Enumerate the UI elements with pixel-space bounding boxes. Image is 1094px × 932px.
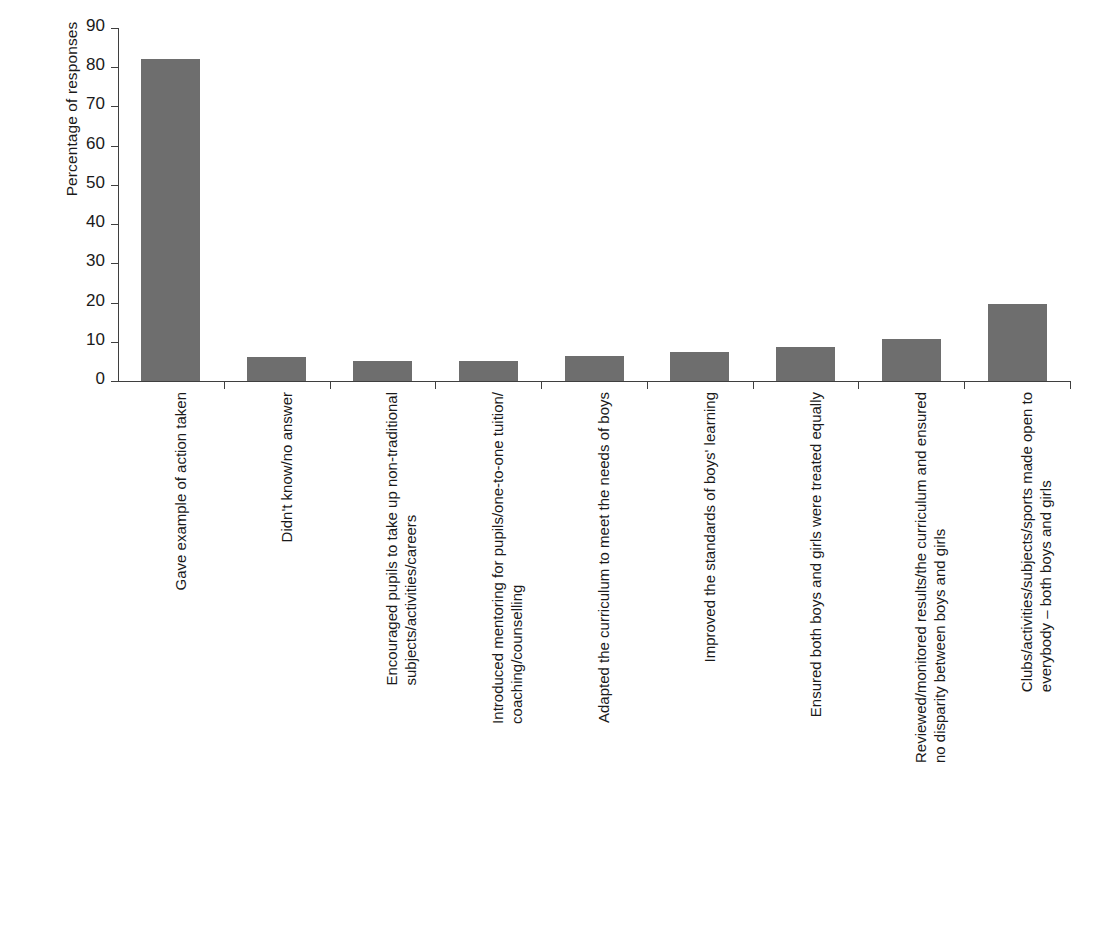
category-label-line: Gave example of action taken: [171, 392, 190, 590]
y-tick-label: 0: [96, 370, 105, 387]
y-tick-mark: [111, 303, 118, 304]
x-tick-mark: [224, 381, 225, 389]
category-label-1: Gave example of action taken: [171, 392, 190, 590]
category-label-6: Improved the standards of boys' learning: [700, 392, 719, 663]
y-tick-0: 0: [118, 381, 119, 382]
y-tick-mark: [111, 185, 118, 186]
category-label-line: Improved the standards of boys' learning: [700, 392, 719, 663]
x-tick-mark: [330, 381, 331, 389]
y-tick-label: 80: [86, 56, 105, 73]
y-tick-label: 30: [86, 252, 105, 269]
category-label-5: Adapted the curriculum to meet the needs…: [594, 392, 613, 723]
y-tick-mark: [111, 224, 118, 225]
x-tick-mark: [435, 381, 436, 389]
bar-1: [141, 59, 200, 381]
category-label-line: Clubs/activities/subjects/sports made op…: [1017, 392, 1036, 692]
y-tick-mark: [111, 67, 118, 68]
bar-7: [776, 347, 835, 381]
x-axis-line: [118, 381, 1071, 382]
bar-9: [988, 304, 1047, 381]
category-label-line: subjects/activities/careers: [401, 392, 420, 686]
bar-6: [670, 352, 729, 381]
category-label-3: Encouraged pupils to take up non-traditi…: [382, 392, 420, 686]
category-label-line: Encouraged pupils to take up non-traditi…: [382, 392, 401, 686]
category-label-4: Introduced mentoring for pupils/one-to-o…: [488, 392, 526, 724]
category-label-line: Reviewed/monitored results/the curriculu…: [911, 392, 930, 763]
category-label-line: Introduced mentoring for pupils/one-to-o…: [488, 392, 507, 724]
y-tick-mark: [111, 106, 118, 107]
category-label-2: Didn't know/no answer: [277, 392, 296, 542]
x-tick-mark: [858, 381, 859, 389]
x-tick-mark: [1070, 381, 1071, 389]
bar-8: [882, 339, 941, 381]
y-tick-label: 10: [86, 331, 105, 348]
category-label-line: Didn't know/no answer: [277, 392, 296, 542]
category-label-line: no disparity between boys and girls: [930, 392, 949, 763]
y-tick-label: 60: [86, 135, 105, 152]
y-tick-label: 90: [86, 17, 105, 34]
category-label-7: Ensured both boys and girls were treated…: [806, 392, 825, 717]
bar-5: [565, 356, 624, 381]
y-tick-label: 70: [86, 95, 105, 112]
category-label-9: Clubs/activities/subjects/sports made op…: [1017, 392, 1055, 692]
y-tick-label: 40: [86, 213, 105, 230]
bar-2: [247, 357, 306, 381]
bar-3: [353, 361, 412, 381]
y-tick-label: 20: [86, 292, 105, 309]
x-tick-mark: [541, 381, 542, 389]
category-label-line: coaching/counselling: [507, 392, 526, 724]
bar-4: [459, 361, 518, 381]
y-tick-mark: [111, 28, 118, 29]
y-tick-mark: [111, 263, 118, 264]
x-tick-mark: [753, 381, 754, 389]
x-tick-mark: [647, 381, 648, 389]
y-axis-title: Percentage of responses: [63, 0, 81, 259]
y-tick-mark: [111, 146, 118, 147]
y-tick-label: 50: [86, 174, 105, 191]
x-tick-mark: [964, 381, 965, 389]
y-tick-mark: [111, 342, 118, 343]
bars-layer: [118, 28, 1070, 381]
category-label-line: Ensured both boys and girls were treated…: [806, 392, 825, 717]
category-label-8: Reviewed/monitored results/the curriculu…: [911, 392, 949, 763]
bar-chart: Percentage of responses 0102030405060708…: [0, 0, 1094, 932]
category-label-line: everybody – both boys and girls: [1036, 392, 1055, 692]
category-label-line: Adapted the curriculum to meet the needs…: [594, 392, 613, 723]
y-tick-mark: [111, 381, 118, 382]
